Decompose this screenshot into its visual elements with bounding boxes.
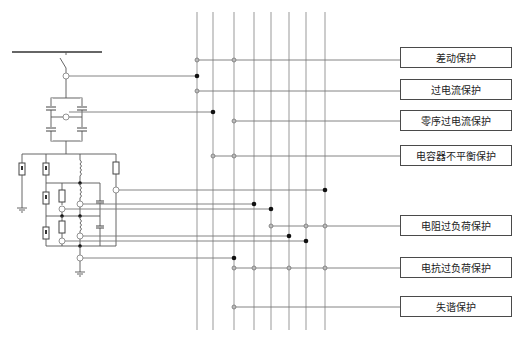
resistor-column: [59, 183, 65, 246]
signal-lines-left: [65, 190, 325, 258]
resistor-overload-box: 电阻过负荷保护: [400, 215, 512, 236]
right-resistor-branch: [113, 154, 119, 246]
junction-dots: [195, 58, 328, 309]
box-label: 差动保护: [436, 50, 476, 65]
box-label: 电抗过负荷保护: [421, 260, 491, 275]
detuning-protection-box: 失谐保护: [400, 296, 512, 317]
reactor-overload-box: 电抗过负荷保护: [400, 257, 512, 278]
box-label: 零序过电流保护: [421, 113, 491, 128]
box-label: 电阻过负荷保护: [421, 218, 491, 233]
arrester-stack: [43, 154, 49, 246]
box-label: 电容器不平衡保护: [416, 148, 496, 163]
differential-protection-box: 差动保护: [400, 47, 512, 68]
zero-sequence-overcurrent-box: 零序过电流保护: [400, 110, 512, 131]
filter-capacitor-column: [96, 183, 104, 246]
box-label: 失谐保护: [436, 299, 476, 314]
signal-lines-right: [197, 60, 400, 307]
capacitor-unbalance-box: 电容器不平衡保护: [400, 145, 512, 166]
overcurrent-protection-box: 过电流保护: [400, 79, 512, 100]
capacitor-bank: [46, 98, 213, 154]
main-busbar: [12, 52, 102, 73]
current-transformer-icon: [63, 73, 69, 79]
unbalance-ct-icon: [63, 114, 69, 120]
arrester-branch-1: [17, 154, 27, 212]
disconnect-switch-icon: [60, 58, 66, 68]
box-label: 过电流保护: [431, 82, 481, 97]
